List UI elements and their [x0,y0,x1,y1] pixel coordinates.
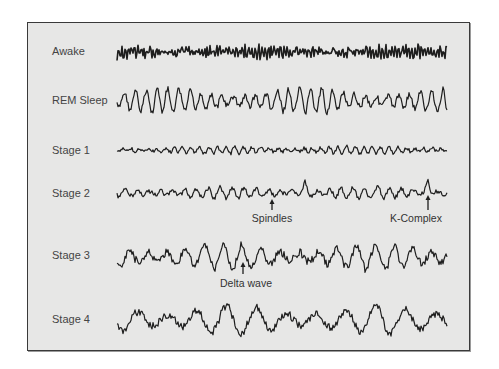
eeg-traces [0,0,499,369]
eeg-trace-rem-sleep [117,87,447,115]
eeg-trace-stage-3 [117,242,447,273]
eeg-trace-awake [117,44,447,61]
arrow-head-icon [426,195,431,200]
arrow-head-icon [270,199,275,204]
arrow-head-icon [241,262,246,267]
eeg-trace-stage-4 [117,304,447,337]
eeg-trace-stage-1 [117,145,447,155]
eeg-trace-stage-2 [117,179,447,199]
